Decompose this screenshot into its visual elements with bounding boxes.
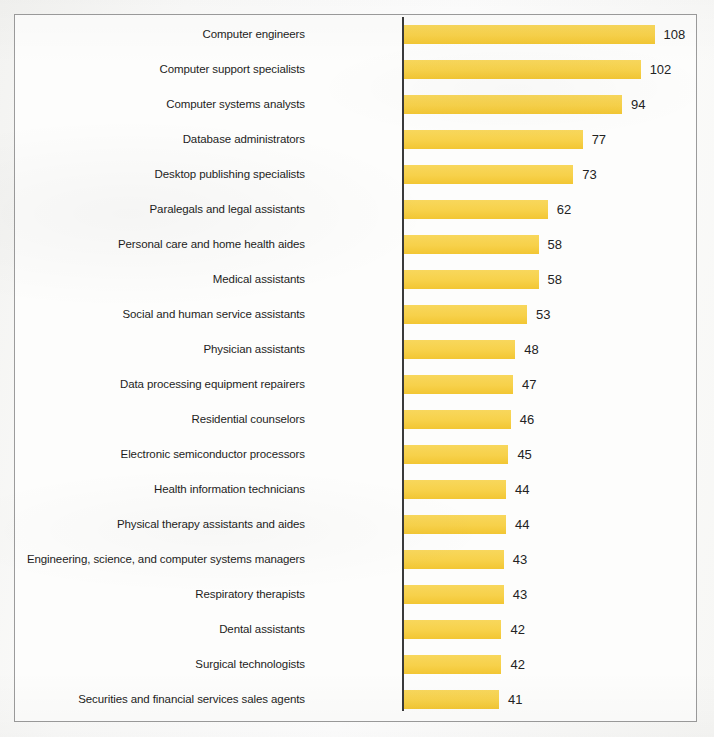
- category-label: Computer engineers: [203, 17, 305, 52]
- scanned-page: Computer engineers108Computer support sp…: [0, 0, 714, 737]
- bar: [404, 130, 583, 149]
- bar: [404, 25, 655, 44]
- bar: [404, 235, 539, 254]
- bar: [404, 655, 501, 674]
- bar-row: Computer support specialists102: [15, 52, 696, 87]
- bar-value-label: 46: [520, 402, 534, 437]
- category-label: Data processing equipment repairers: [120, 367, 305, 402]
- bar-value-label: 53: [536, 297, 550, 332]
- bar-value-label: 44: [515, 507, 529, 542]
- bar-row: Personal care and home health aides58: [15, 227, 696, 262]
- bar-row: Securities and financial services sales …: [15, 682, 696, 717]
- category-label: Physical therapy assistants and aides: [117, 507, 305, 542]
- bar-row: Medical assistants58: [15, 262, 696, 297]
- category-label: Surgical technologists: [195, 647, 305, 682]
- bar-row: Dental assistants42: [15, 612, 696, 647]
- bar-value-label: 43: [513, 577, 527, 612]
- bar: [404, 445, 508, 464]
- bar-row: Computer systems analysts94: [15, 87, 696, 122]
- bar-value-label: 58: [548, 227, 562, 262]
- category-label: Electronic semiconductor processors: [121, 437, 305, 472]
- bar-row: Data processing equipment repairers47: [15, 367, 696, 402]
- category-label: Computer support specialists: [160, 52, 306, 87]
- bar-row: Health information technicians44: [15, 472, 696, 507]
- bar-value-label: 108: [664, 17, 686, 52]
- category-label: Engineering, science, and computer syste…: [27, 542, 305, 577]
- bar-chart-plot: Computer engineers108Computer support sp…: [15, 15, 696, 721]
- bar-row: Residential counselors46: [15, 402, 696, 437]
- bar-value-label: 73: [582, 157, 596, 192]
- bar-row: Electronic semiconductor processors45: [15, 437, 696, 472]
- category-label: Dental assistants: [219, 612, 305, 647]
- bar-row: Social and human service assistants53: [15, 297, 696, 332]
- bar-value-label: 42: [510, 612, 524, 647]
- category-label: Social and human service assistants: [122, 297, 305, 332]
- bar-row: Engineering, science, and computer syste…: [15, 542, 696, 577]
- bar: [404, 480, 506, 499]
- category-label: Paralegals and legal assistants: [150, 192, 305, 227]
- bar-value-label: 58: [548, 262, 562, 297]
- bar: [404, 200, 548, 219]
- bar-row: Database administrators77: [15, 122, 696, 157]
- bar: [404, 270, 539, 289]
- bar-value-label: 102: [650, 52, 672, 87]
- bar: [404, 620, 501, 639]
- bar-row: Physician assistants48: [15, 332, 696, 367]
- category-label: Desktop publishing specialists: [155, 157, 305, 192]
- bar-value-label: 62: [557, 192, 571, 227]
- category-label: Securities and financial services sales …: [78, 682, 305, 717]
- bar-row: Desktop publishing specialists73: [15, 157, 696, 192]
- category-label: Residential counselors: [191, 402, 305, 437]
- bar-row: Physical therapy assistants and aides44: [15, 507, 696, 542]
- category-label: Computer systems analysts: [166, 87, 305, 122]
- bar-row: Computer engineers108: [15, 17, 696, 52]
- bar: [404, 515, 506, 534]
- bar-row: Respiratory therapists43: [15, 577, 696, 612]
- bar-value-label: 45: [517, 437, 531, 472]
- category-label: Respiratory therapists: [195, 577, 305, 612]
- bar: [404, 585, 504, 604]
- category-label: Medical assistants: [213, 262, 305, 297]
- bar-row: Surgical technologists42: [15, 647, 696, 682]
- chart-frame: Computer engineers108Computer support sp…: [14, 14, 697, 722]
- bar-value-label: 43: [513, 542, 527, 577]
- bar-value-label: 94: [631, 87, 645, 122]
- category-label: Physician assistants: [203, 332, 305, 367]
- bar: [404, 550, 504, 569]
- bar: [404, 375, 513, 394]
- bar-value-label: 42: [510, 647, 524, 682]
- category-label: Database administrators: [183, 122, 305, 157]
- bar-value-label: 47: [522, 367, 536, 402]
- bar: [404, 60, 641, 79]
- bar-value-label: 44: [515, 472, 529, 507]
- bar-value-label: 77: [592, 122, 606, 157]
- bar: [404, 410, 511, 429]
- bar-value-label: 48: [524, 332, 538, 367]
- bar: [404, 690, 499, 709]
- bar-value-label: 41: [508, 682, 522, 717]
- bar: [404, 340, 515, 359]
- bar: [404, 95, 622, 114]
- category-label: Health information technicians: [154, 472, 305, 507]
- bar: [404, 305, 527, 324]
- bar-row: Paralegals and legal assistants62: [15, 192, 696, 227]
- bar: [404, 165, 573, 184]
- category-label: Personal care and home health aides: [118, 227, 305, 262]
